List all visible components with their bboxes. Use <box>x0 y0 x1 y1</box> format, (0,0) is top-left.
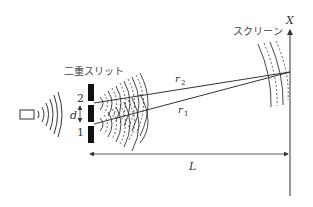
axis-label: X <box>285 14 295 27</box>
path-rays <box>94 72 290 124</box>
source-wavefronts <box>38 92 62 137</box>
screen-label: スクリーン <box>233 26 283 37</box>
double-slit-label: 二重スリット <box>64 65 124 77</box>
light-source <box>20 110 34 119</box>
distance-label: L <box>188 160 196 173</box>
double-slit-diagram: 二重スリット スクリーン X 2 1 d r 2 r 1 L <box>0 0 313 207</box>
slit-upper-label: 2 <box>77 92 84 105</box>
slit-spacing-label: d <box>70 109 77 122</box>
path-lower-subscript: 1 <box>184 110 188 118</box>
slit-lower-label: 1 <box>77 126 84 139</box>
double-slit-barrier <box>88 84 94 143</box>
path-upper-subscript: 2 <box>181 79 185 87</box>
